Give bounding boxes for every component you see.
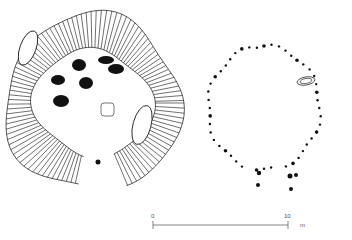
hachure-line xyxy=(132,142,156,166)
post-hole xyxy=(220,70,222,72)
hachure-line xyxy=(12,81,34,87)
hachure-line xyxy=(119,26,139,59)
hachure-line xyxy=(154,113,183,118)
hachure-line xyxy=(81,14,85,48)
pit-feature xyxy=(79,77,93,89)
hachure-line xyxy=(46,31,64,58)
post-hole xyxy=(240,47,244,51)
hachure-line xyxy=(71,154,79,182)
post-hole xyxy=(302,63,304,65)
post-hole xyxy=(262,44,266,48)
post-hole xyxy=(315,130,319,134)
post-hole xyxy=(270,44,272,46)
terminal-dot xyxy=(96,160,101,165)
hachure-line xyxy=(155,110,184,113)
post-hole xyxy=(218,145,220,147)
hachure-line xyxy=(91,11,92,47)
pit-feature xyxy=(51,75,65,85)
post-hole xyxy=(315,91,319,95)
post-hole xyxy=(207,90,209,92)
ditch-hollow-nw xyxy=(14,28,41,67)
post-hole-large xyxy=(294,173,298,177)
hachure-line xyxy=(11,86,33,91)
hachure-line xyxy=(104,11,112,50)
post-hole xyxy=(270,166,272,168)
pit-feature xyxy=(72,59,86,71)
scale-bar xyxy=(153,221,288,229)
post-hole xyxy=(313,75,315,77)
hachure-line xyxy=(10,90,31,93)
post-hole xyxy=(315,83,317,85)
hachure-line xyxy=(101,10,107,49)
post-hole xyxy=(316,99,318,101)
hachure-line xyxy=(95,11,96,48)
hachure-line xyxy=(52,148,68,178)
pit-feature xyxy=(108,64,124,74)
hachure-line xyxy=(41,33,60,59)
hachure-line xyxy=(9,95,31,97)
post-hole xyxy=(319,123,321,125)
hachure-line xyxy=(9,99,31,100)
site-plan-figure: 0 10 m xyxy=(0,0,352,240)
post-hole xyxy=(290,55,292,57)
hachure-line xyxy=(86,12,89,47)
post-hole xyxy=(241,165,243,167)
post-hole xyxy=(302,150,304,152)
hachure-line xyxy=(149,77,174,85)
hachure-line xyxy=(6,120,37,129)
post-hole-large xyxy=(289,187,293,191)
scale-start-label: 0 xyxy=(151,213,154,219)
post-hole xyxy=(230,155,232,157)
post-hole xyxy=(306,143,308,145)
hachure-line xyxy=(150,123,179,133)
hachure-line xyxy=(120,151,137,181)
post-hole xyxy=(208,114,212,118)
enclosure-plan xyxy=(6,10,184,186)
hachure-line xyxy=(13,76,36,84)
hachure-line xyxy=(135,54,158,71)
scale-unit-label: m xyxy=(300,222,305,228)
post-circle-plan xyxy=(207,44,322,191)
hachure-line xyxy=(98,10,101,48)
post-hole xyxy=(284,49,286,51)
pit-feature xyxy=(98,56,114,64)
post-hole xyxy=(256,47,258,49)
hachure-line xyxy=(155,95,183,97)
post-hole-large xyxy=(256,183,260,187)
post-hole xyxy=(229,58,231,60)
hachure-line xyxy=(155,106,184,108)
hachure-line xyxy=(75,156,81,184)
post-hole xyxy=(209,107,211,109)
post-hole xyxy=(235,160,237,162)
post-hole xyxy=(210,131,212,133)
hachure-line xyxy=(76,16,82,49)
site-plan-drawing xyxy=(0,0,352,240)
hachure-line xyxy=(13,132,48,154)
hachure-line xyxy=(47,146,66,177)
hachure-line xyxy=(152,120,181,128)
ditch-hollow-se xyxy=(128,103,156,146)
stone-feature xyxy=(101,103,114,116)
post-hole-large xyxy=(288,174,293,179)
post-hole xyxy=(295,59,299,63)
post-hole xyxy=(207,99,209,101)
post-hole xyxy=(318,107,320,109)
post-hole xyxy=(320,115,322,117)
post-hole xyxy=(291,162,295,166)
hachure-line xyxy=(72,17,80,48)
post-hole xyxy=(209,82,211,84)
hachure-line xyxy=(50,28,66,56)
post-hole xyxy=(297,157,299,159)
hachure-line xyxy=(155,100,183,101)
hachure-line xyxy=(137,58,160,73)
post-hole xyxy=(285,165,287,167)
post-hole xyxy=(308,68,310,70)
hachure-line xyxy=(117,23,135,58)
hachure-line xyxy=(7,111,32,114)
oval-stone xyxy=(296,75,315,86)
post-hole xyxy=(278,45,280,47)
hachure-line xyxy=(9,128,43,145)
hachure-line xyxy=(121,30,142,61)
scale-end-label: 10 xyxy=(284,213,291,219)
post-hole-large xyxy=(257,171,261,175)
